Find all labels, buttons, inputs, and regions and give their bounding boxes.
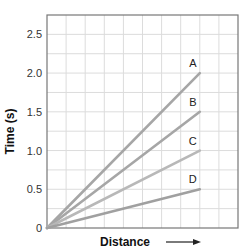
y-tick-label: 2.0 [27,67,42,79]
y-tick-label: 2.5 [27,28,42,40]
grid [47,15,238,228]
y-axis-label: Time (s) [3,109,17,155]
series-label-d: D [189,173,197,185]
series-label-a: A [189,57,197,69]
series-label-c: C [189,135,197,147]
y-tick-label: 1.0 [27,145,42,157]
y-tick-label: 0.5 [27,183,42,195]
right-arrow-icon [166,239,201,245]
y-tick-labels: 00.51.01.52.02.5 [27,28,42,234]
x-axis-label: Distance [100,235,150,249]
series-label-b: B [189,96,196,108]
y-tick-label: 1.5 [27,106,42,118]
y-tick-label: 0 [36,222,42,234]
time-distance-chart: ABCD 00.51.01.52.02.5 Time (s) Distance [0,0,248,252]
